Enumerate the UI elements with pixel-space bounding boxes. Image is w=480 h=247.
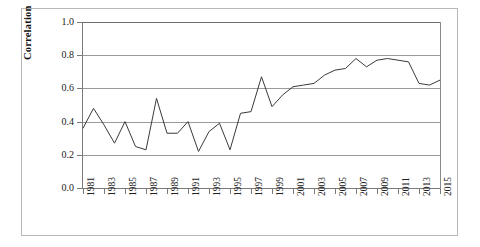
x-tick-mark <box>251 189 252 194</box>
x-tick-mark <box>83 189 84 194</box>
x-tick-mark <box>104 189 105 194</box>
y-tick-label: 0.2 <box>44 150 74 160</box>
x-tick-mark <box>398 189 399 194</box>
line-series-correlation <box>83 22 440 189</box>
right-spine <box>440 22 441 189</box>
x-tick-mark <box>440 189 441 194</box>
y-tick-label: 0.8 <box>44 50 74 60</box>
x-tick-mark <box>419 189 420 194</box>
y-tick-label: 1.0 <box>44 17 74 27</box>
x-tick-mark <box>146 189 147 194</box>
y-tick-label: 0.4 <box>44 117 74 127</box>
x-tick-mark <box>188 189 189 194</box>
x-tick-mark <box>293 189 294 194</box>
x-tick-mark <box>314 189 315 194</box>
x-tick-mark <box>335 189 336 194</box>
x-tick-mark <box>209 189 210 194</box>
x-tick-mark <box>167 189 168 194</box>
y-axis-title: Correlation <box>22 46 33 60</box>
figure-container: Correlation 0.00.20.40.60.81.0 198119831… <box>0 0 480 247</box>
x-tick-mark <box>377 189 378 194</box>
y-tick-label: 0.6 <box>44 83 74 93</box>
y-tick-label: 0.0 <box>44 183 74 193</box>
x-tick-mark <box>230 189 231 194</box>
x-tick-mark <box>125 189 126 194</box>
x-tick-mark <box>356 189 357 194</box>
x-tick-mark <box>272 189 273 194</box>
x-tick-label: 2015 <box>444 177 454 196</box>
